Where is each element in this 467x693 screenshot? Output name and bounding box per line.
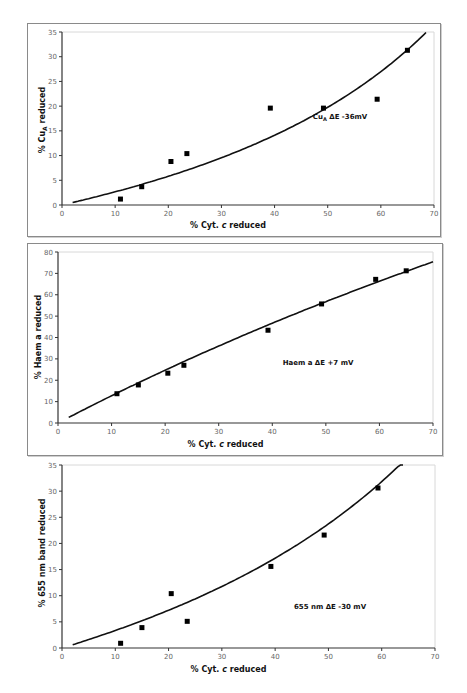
data-point (268, 564, 273, 569)
x-tick-label: 10 (111, 653, 120, 661)
fit-annotation: 655 nm ΔE -30 mV (294, 603, 367, 611)
fit-curve (73, 465, 403, 645)
data-point (185, 619, 190, 624)
chart-655nm: 01020304050607005101520253035% Cyt. c re… (0, 0, 467, 693)
x-tick-label: 20 (164, 653, 173, 661)
x-tick-label: 60 (377, 653, 386, 661)
x-tick-label: 40 (271, 653, 280, 661)
x-tick-label: 30 (217, 653, 226, 661)
data-point (322, 533, 327, 538)
x-axis-label: % Cyt. c reduced (191, 665, 267, 674)
data-point (375, 486, 380, 491)
y-tick-label: 10 (48, 592, 57, 600)
axes: 01020304050607005101520253035 (48, 462, 439, 662)
y-tick-label: 0 (53, 645, 57, 653)
y-tick-label: 15 (48, 566, 57, 574)
data-point (139, 625, 144, 630)
x-tick-label: 50 (324, 653, 333, 661)
y-tick-label: 5 (53, 618, 57, 626)
data-point (118, 641, 123, 646)
y-tick-label: 30 (48, 488, 57, 496)
y-axis-label: % 655 nm band reduced (38, 498, 47, 607)
x-tick-label: 70 (431, 653, 440, 661)
y-tick-label: 35 (48, 462, 57, 470)
y-tick-label: 25 (48, 514, 57, 522)
data-point (169, 591, 174, 596)
y-tick-label: 20 (48, 540, 57, 548)
x-tick-label: 0 (60, 653, 64, 661)
